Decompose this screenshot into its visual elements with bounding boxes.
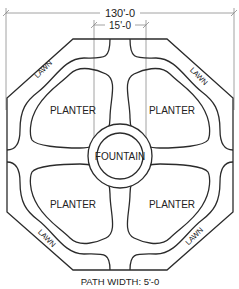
lawn-label-bottom-right: LAWN <box>183 225 204 246</box>
overall-dimension-label: 130'-0 <box>105 7 135 19</box>
planter-label-top-right: PLANTER <box>149 105 195 116</box>
path-spacing-label: 15'-0 <box>109 20 131 31</box>
lawn-label-top-left: LAWN <box>32 58 53 79</box>
path-width-note: PATH WIDTH: 5'-0 <box>81 276 160 287</box>
lawn-label-top-right: LAWN <box>188 65 209 86</box>
planter-label-bottom-left: PLANTER <box>50 199 96 210</box>
path-spacing-dimension: 15'-0 <box>91 20 149 140</box>
fountain-label: FOUNTAIN <box>95 151 145 162</box>
garden-plan-diagram: 130'-0 15'-0 FOUNTAIN PLANTER PLAN <box>0 0 239 289</box>
lawn-label-bottom-left: LAWN <box>36 227 57 248</box>
planter-label-top-left: PLANTER <box>50 105 96 116</box>
planter-label-bottom-right: PLANTER <box>149 199 195 210</box>
fountain: FOUNTAIN <box>88 124 152 188</box>
